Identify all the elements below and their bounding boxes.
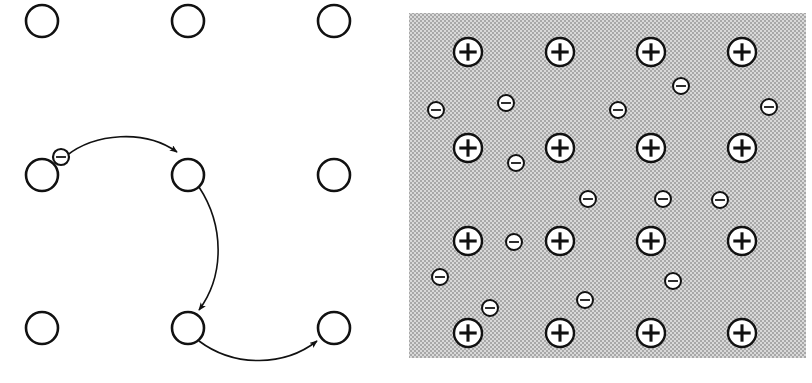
- panel-electron-sea-lattice: [406, 0, 812, 383]
- hopping-electron-group: [53, 149, 69, 165]
- atom-circle-atom-r2c2: [172, 159, 204, 191]
- physics-figure-electron-conduction: [0, 0, 812, 383]
- atom-circle-atom-r2c1: [26, 159, 58, 191]
- atom-circle-atom-r1c3: [318, 5, 350, 37]
- atom-circle-atom-r3c2: [172, 312, 204, 344]
- atom-circle-atom-r3c1: [26, 312, 58, 344]
- atom-circle-atom-r1c1: [26, 5, 58, 37]
- right-panel-canvas: [406, 0, 812, 383]
- arrow-hop-path-2: [199, 187, 218, 310]
- arrow-hop-path-1: [66, 137, 177, 156]
- arrow-hop-path-3: [199, 341, 317, 361]
- left-panel-canvas: [0, 0, 406, 383]
- atom-group: [26, 5, 350, 344]
- atom-circle-atom-r2c3: [318, 159, 350, 191]
- atom-circle-atom-r1c2: [172, 5, 204, 37]
- panel-conductor-lattice-outline: [0, 0, 406, 383]
- atom-circle-atom-r3c3: [318, 312, 350, 344]
